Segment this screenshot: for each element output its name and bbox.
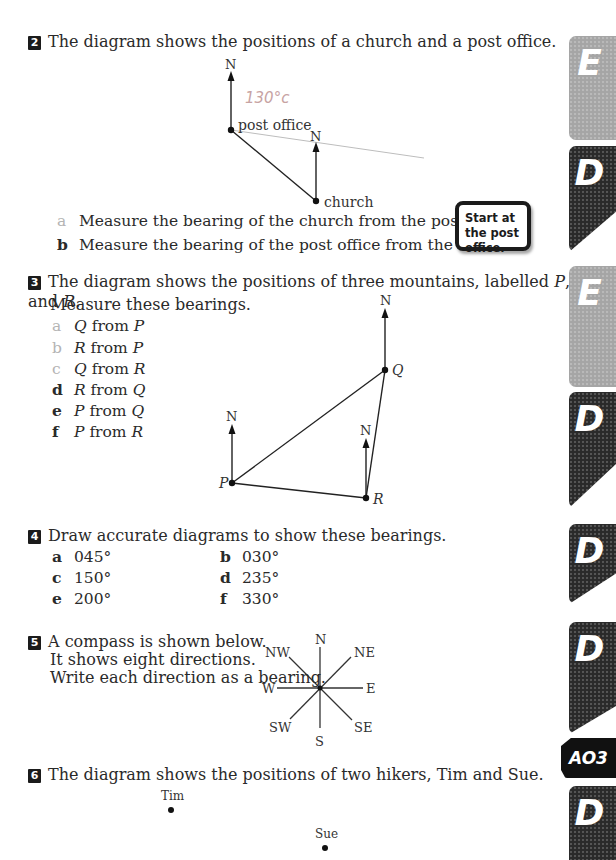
question-5-line-2: It shows eight directions. [50,650,256,670]
point-R [363,495,369,501]
north-arrow-icon [229,424,236,434]
question-4-part-a: a045° [52,547,111,567]
question-6-stem: 6The diagram shows the positions of two … [28,765,544,785]
question-4-part-e: e200° [52,589,111,609]
compass-NE: NE [354,645,375,660]
north-arrow-icon [228,71,235,81]
question-2-part-b: bMeasure the bearing of the post office … [57,235,517,255]
handwritten-annotation: 130°c [245,89,290,107]
label-R: R [372,491,384,507]
question-4-part-f: f330° [220,589,279,609]
sue-label: Sue [315,827,338,841]
compass-SW: SW [269,720,292,735]
post-office-label: post office [238,117,312,133]
grade-tab-E: E [569,266,616,387]
church-label: church [324,194,373,210]
compass-SE: SE [354,720,372,735]
question-number-badge: 4 [28,530,41,544]
point-Q [382,367,388,373]
tim-label: Tim [161,789,185,803]
question-3-part-f: fP from R [52,422,143,442]
question-3-part-e: eP from Q [52,401,144,421]
hint-box: Start at the post office. [455,201,531,251]
question-2-part-a: aMeasure the bearing of the church from … [57,211,517,231]
question-4-part-c: c150° [52,568,111,588]
north-label: N [226,409,237,424]
sue-point [322,845,328,851]
grade-tab-E: E [569,36,616,140]
question-5-stem: 5A compass is shown below. [28,632,267,652]
question-4-part-b: b030° [220,547,279,567]
compass-E: E [366,681,376,696]
point-P [229,480,235,486]
church-point [313,198,319,204]
question-3-instruction: Measure these bearings. [50,295,251,315]
question-4-stem: 4Draw accurate diagrams to show these be… [28,526,446,546]
compass-diagram: N NE E SE S SW W NW [262,632,376,749]
post-office-point [228,127,234,133]
question-number-badge: 6 [28,769,41,783]
question-number-badge: 3 [28,276,41,290]
compass-N: N [315,632,326,647]
grade-tab-D: D [569,786,616,860]
question-4-part-d: d235° [220,568,279,588]
label-Q: Q [392,362,404,378]
compass-S: S [315,734,324,749]
north-label: N [360,423,371,438]
compass-NW: NW [265,645,290,660]
north-label: N [225,57,236,72]
assessment-objective-tab: AO3 [561,738,616,778]
north-arrow-icon [363,438,370,448]
question-3-part-d: dR from Q [52,380,145,400]
tim-point [168,807,174,813]
label-P: P [218,475,229,491]
question-3-part-c: cQ from R [52,359,145,379]
question-3-part-a: aQ from P [52,316,144,336]
question-number-badge: 5 [28,636,41,650]
question-5-line-3: Write each direction as a bearing. [50,668,326,688]
question-3-part-b: bR from P [52,338,143,358]
north-label: N [310,129,321,144]
